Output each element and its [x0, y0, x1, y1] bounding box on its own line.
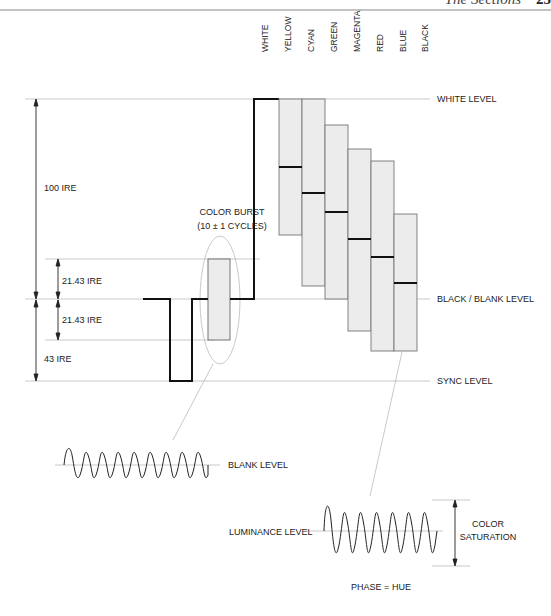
bar-label-red: RED	[375, 34, 385, 52]
black-blank-level-label: BLACK / BLANK LEVEL	[437, 294, 534, 304]
bar-label-black: BLACK	[420, 24, 430, 52]
label-21-ire-lower: 21.43 IRE	[62, 315, 102, 325]
bar-label-cyan: CYAN	[306, 29, 316, 52]
burst-sine-wave	[64, 448, 208, 477]
color-label: COLOR	[472, 519, 505, 529]
bar-label-white: WHITE	[260, 24, 270, 52]
white-level-label: WHITE LEVEL	[437, 94, 497, 104]
label-43-ire: 43 IRE	[44, 354, 72, 364]
saturation-label: SATURATION	[460, 532, 517, 542]
blank-level-label: BLANK LEVEL	[228, 460, 288, 470]
label-100-ire: 100 IRE	[44, 183, 77, 193]
color-burst-label: COLOR BURST	[199, 207, 265, 217]
color-bars	[279, 99, 417, 351]
label-21-ire-upper: 21.43 IRE	[62, 276, 102, 286]
dimension-arrows	[34, 99, 60, 381]
saturation-arrow	[453, 500, 457, 566]
bar-label-green: GREEN	[329, 22, 339, 52]
bar-label-blue: BLUE	[398, 29, 408, 52]
color-burst-cycles: (10 ± 1 CYCLES)	[197, 221, 266, 231]
sync-level-label: SYNC LEVEL	[437, 376, 493, 386]
blue-callout-line	[370, 352, 402, 496]
bar-label-yellow: YELLOW	[283, 17, 293, 52]
phase-hue-label: PHASE = HUE	[351, 582, 411, 592]
luminance-level-label: LUMINANCE LEVEL	[229, 527, 313, 537]
color-burst-box	[208, 259, 230, 340]
bar-label-magenta: MAGENTA	[352, 10, 362, 52]
color-bar-waveform-diagram: 100 IRE 21.43 IRE 21.43 IRE 43 IRE COLOR…	[0, 0, 551, 616]
chroma-sine-wave	[324, 506, 437, 553]
